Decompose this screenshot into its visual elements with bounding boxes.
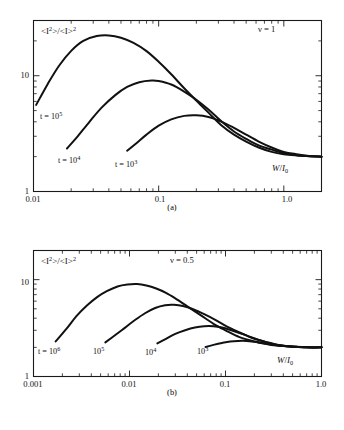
curve-label-b-2: 105 xyxy=(93,345,104,356)
x-axis-label-b: W/I0 xyxy=(277,355,293,366)
curve-label-b-3: 104 xyxy=(145,346,156,357)
panel-b-curves xyxy=(56,284,322,347)
y-tick-label-a-10: 10 xyxy=(20,70,29,80)
curve-label-a-2: t = 104 xyxy=(58,154,80,165)
y-axis-label-b: <I2>/<I>2 xyxy=(41,255,76,266)
y-tick-label-b-10: 10 xyxy=(20,277,29,287)
curve-label-b-1: t = 106 xyxy=(38,345,60,356)
data-curve-a-2 xyxy=(67,80,322,156)
data-curve-a-1 xyxy=(36,35,321,156)
panel-b: <I2>/<I>2 ν = 0.5 W/I0 t = 106 105 104 1… xyxy=(0,215,344,430)
panel-a-svg: <I2>/<I>2 ν = 1 W/I0 t = 105 t = 104 t =… xyxy=(0,0,344,215)
data-curve-a-3 xyxy=(127,115,321,156)
figure-container: <I2>/<I>2 ν = 1 W/I0 t = 105 t = 104 t =… xyxy=(0,0,344,430)
curve-label-b-4: 103 xyxy=(197,345,208,356)
x-axis-label-a: W/I0 xyxy=(272,163,288,174)
curve-label-a-1: t = 105 xyxy=(40,110,62,121)
nu-annotation-b: ν = 0.5 xyxy=(170,255,194,265)
y-axis-label-a: <I2>/<I>2 xyxy=(41,25,76,36)
nu-annotation-a: ν = 1 xyxy=(258,24,275,34)
panel-caption-b: (b) xyxy=(167,388,177,397)
curve-label-a-3: t = 103 xyxy=(115,158,137,169)
data-curve-b-1 xyxy=(56,284,322,347)
panel-caption-a: (a) xyxy=(167,203,176,212)
panel-a-curves xyxy=(36,35,321,156)
panel-a: <I2>/<I>2 ν = 1 W/I0 t = 105 t = 104 t =… xyxy=(0,0,344,215)
